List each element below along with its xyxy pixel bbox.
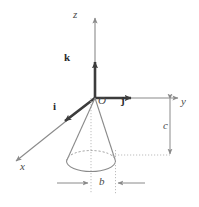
x-axis-label: x [20, 161, 25, 172]
guide-lines [112, 150, 170, 194]
vector-j-label: j [121, 95, 125, 106]
cone-slant-right [95, 98, 116, 161]
axis-lines [16, 18, 178, 161]
radius-dimension-label: b [99, 176, 105, 187]
figure-canvas: z y x k j i O c b [0, 0, 199, 207]
origin-label: O [98, 95, 106, 106]
cone-base-front-arc [67, 161, 116, 172]
vector-k-label: k [64, 52, 70, 63]
unit-vector-arrows [65, 62, 131, 121]
cone-shape [67, 98, 116, 193]
z-axis-label: z [73, 9, 77, 20]
y-axis-label: y [181, 96, 186, 107]
vector-i-label: i [53, 101, 56, 112]
height-dimension-label: c [163, 120, 168, 131]
